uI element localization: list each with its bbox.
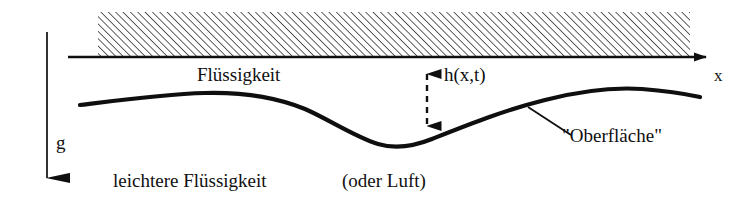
label-gravity: g — [56, 132, 66, 153]
physics-diagram: Flüssigkeit h(x,t) "Oberfläche" leichter… — [0, 0, 751, 212]
hatch-pattern-icon — [98, 12, 690, 57]
figure-container: Flüssigkeit h(x,t) "Oberfläche" leichter… — [0, 0, 751, 212]
label-surface: "Oberfläche" — [562, 125, 662, 146]
label-or-air: (oder Luft) — [342, 170, 426, 192]
label-axis-x: x — [714, 66, 723, 85]
label-liquid: Flüssigkeit — [197, 64, 281, 85]
label-lighter-liquid: leichtere Flüssigkeit — [113, 170, 267, 191]
label-height-function: h(x,t) — [444, 64, 486, 86]
